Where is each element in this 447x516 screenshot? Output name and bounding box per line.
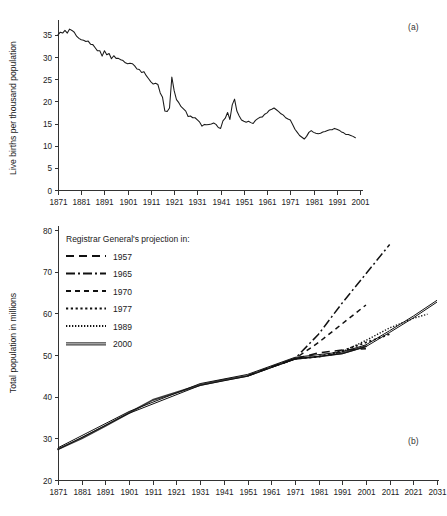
y-tick-label-births: 15 bbox=[43, 120, 53, 129]
x-tick-label-births: 1941 bbox=[212, 198, 231, 207]
x-tick-label-population: 1891 bbox=[96, 488, 115, 497]
x-tick-label-population: 1941 bbox=[215, 488, 234, 497]
x-tick-label-births: 1961 bbox=[258, 198, 277, 207]
projection-line-1957 bbox=[248, 349, 366, 376]
legend-label-1965: 1965 bbox=[113, 269, 132, 279]
x-tick-label-population: 2011 bbox=[382, 488, 400, 497]
x-tick-label-population: 1961 bbox=[262, 488, 281, 497]
x-tick-label-population: 2001 bbox=[357, 488, 376, 497]
legend-item-1965[interactable]: 1965 bbox=[66, 269, 132, 279]
x-tick-label-births: 1981 bbox=[305, 198, 324, 207]
projection-line-1965 bbox=[271, 245, 389, 368]
legend-label-1957: 1957 bbox=[113, 252, 132, 262]
y-tick-label-births: 0 bbox=[47, 187, 52, 196]
x-tick-label-population: 2021 bbox=[404, 488, 423, 497]
panel-label-a: (a) bbox=[408, 22, 419, 32]
y-tick-label-population: 70 bbox=[43, 268, 53, 277]
y-axis-title-population: Total population in millions bbox=[8, 293, 18, 393]
births-chart-svg: 0510152025303518711881189119011911192119… bbox=[0, 0, 447, 208]
chart-panel-births: 0510152025303518711881189119011911192119… bbox=[0, 0, 447, 208]
x-tick-label-births: 1931 bbox=[188, 198, 207, 207]
x-tick-label-population: 1981 bbox=[310, 488, 329, 497]
legend-item-1977[interactable]: 1977 bbox=[66, 304, 132, 314]
y-tick-label-population: 30 bbox=[43, 435, 53, 444]
x-tick-label-births: 1921 bbox=[165, 198, 184, 207]
y-tick-label-population: 50 bbox=[43, 352, 53, 361]
x-tick-label-births: 1891 bbox=[95, 198, 114, 207]
x-tick-label-population: 1921 bbox=[167, 488, 186, 497]
x-tick-label-population: 1871 bbox=[49, 488, 68, 497]
x-tick-label-population: 2031 bbox=[428, 488, 447, 497]
y-tick-label-population: 40 bbox=[43, 393, 53, 402]
y-tick-label-births: 5 bbox=[47, 164, 52, 173]
y-tick-label-births: 30 bbox=[43, 54, 53, 63]
x-tick-label-births: 2001 bbox=[351, 198, 370, 207]
legend-label-1977: 1977 bbox=[113, 304, 132, 314]
y-tick-label-births: 20 bbox=[43, 98, 53, 107]
population-chart-svg: 2030405060708018711881189119011911192119… bbox=[0, 208, 447, 516]
x-tick-label-births: 1911 bbox=[143, 198, 161, 207]
births-series-line bbox=[58, 29, 355, 139]
legend-item-2000[interactable]: 2000 bbox=[66, 339, 132, 349]
x-tick-label-population: 1931 bbox=[191, 488, 210, 497]
y-tick-label-population: 80 bbox=[43, 227, 53, 236]
y-tick-label-births: 25 bbox=[43, 76, 53, 85]
legend-item-1970[interactable]: 1970 bbox=[66, 287, 132, 297]
chart-panel-population: 2030405060708018711881189119011911192119… bbox=[0, 208, 447, 516]
y-tick-label-population: 20 bbox=[43, 477, 53, 486]
x-tick-label-births: 1871 bbox=[49, 198, 68, 207]
legend-label-2000: 2000 bbox=[113, 339, 132, 349]
x-tick-label-population: 1991 bbox=[333, 488, 352, 497]
legend-item-1989[interactable]: 1989 bbox=[66, 322, 132, 332]
y-tick-label-population: 60 bbox=[43, 310, 53, 319]
x-tick-label-births: 1901 bbox=[119, 198, 138, 207]
historical-population-line bbox=[58, 346, 366, 449]
legend-label-1989: 1989 bbox=[113, 322, 132, 332]
x-tick-label-population: 1911 bbox=[145, 488, 163, 497]
x-tick-label-population: 1971 bbox=[286, 488, 305, 497]
y-tick-label-births: 10 bbox=[43, 142, 53, 151]
legend-label-1970: 1970 bbox=[113, 287, 132, 297]
figure-container: 0510152025303518711881189119011911192119… bbox=[0, 0, 447, 516]
projection-line-1989 bbox=[330, 314, 427, 355]
x-tick-label-population: 1951 bbox=[239, 488, 258, 497]
x-tick-label-births: 1951 bbox=[235, 198, 254, 207]
x-tick-label-births: 1881 bbox=[72, 198, 91, 207]
legend-title: Registrar General's projection in: bbox=[66, 234, 190, 244]
x-tick-label-population: 1901 bbox=[120, 488, 139, 497]
y-axis-title-births: Live births per thousand population bbox=[8, 41, 18, 175]
x-tick-label-population: 1881 bbox=[73, 488, 92, 497]
x-tick-label-births: 1971 bbox=[281, 198, 300, 207]
x-tick-label-births: 1991 bbox=[328, 198, 347, 207]
y-tick-label-births: 35 bbox=[43, 31, 53, 40]
panel-label-b: (b) bbox=[408, 436, 419, 446]
legend-item-1957[interactable]: 1957 bbox=[66, 252, 132, 262]
